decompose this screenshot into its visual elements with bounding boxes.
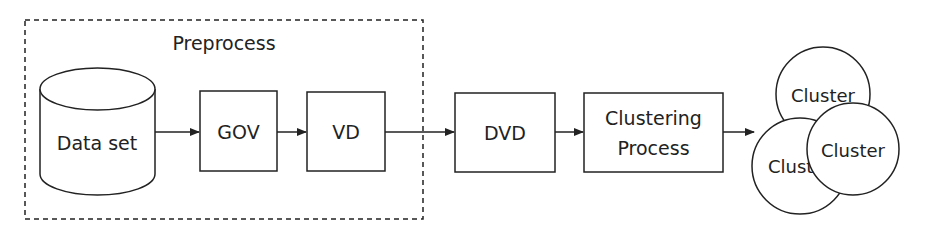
clustering-label-line1: Clustering [605,107,702,129]
gov-box: GOV [200,91,277,171]
cluster-group: Cluster Clust Cluster [752,47,899,214]
dvd-label: DVD [484,122,526,144]
svg-text:Cluster: Cluster [821,140,885,161]
dataset-cylinder: Data set [40,68,155,195]
preprocess-label: Preprocess [172,32,275,54]
diagram-canvas: Preprocess Data set GOV VD DVD Clusterin… [0,0,947,235]
svg-text:Clust: Clust [768,156,813,177]
vd-label: VD [332,121,360,143]
dataset-label: Data set [57,132,137,154]
clustering-label-line2: Process [617,137,689,159]
gov-label: GOV [217,121,259,143]
vd-box: VD [307,92,385,171]
cluster-right: Cluster [807,103,899,195]
dvd-box: DVD [455,93,555,172]
clustering-process-box: Clustering Process [584,93,723,172]
